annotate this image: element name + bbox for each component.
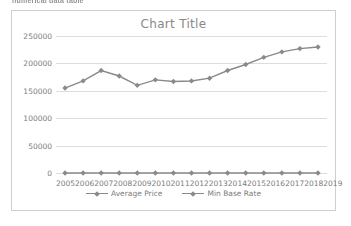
data-point-marker — [315, 170, 320, 175]
data-point-marker — [117, 73, 122, 78]
data-point-marker — [62, 85, 67, 90]
chart-title: Chart Title — [12, 17, 335, 31]
series-lines-group — [56, 36, 327, 173]
data-point-marker — [225, 170, 230, 175]
chart-frame: Chart Title 0500001000001500002000002500… — [11, 10, 336, 211]
data-point-marker — [279, 49, 284, 54]
data-point-marker — [207, 76, 212, 81]
data-point-marker — [297, 46, 302, 51]
data-point-marker — [135, 170, 140, 175]
y-axis-tick-label: 250000 — [23, 32, 52, 41]
data-point-marker — [225, 68, 230, 73]
chart-legend: Average PriceMin Base Rate — [12, 189, 335, 198]
y-axis-tick-label: 50000 — [28, 141, 52, 150]
legend-line-marker-icon — [182, 190, 204, 198]
data-point-marker — [80, 170, 85, 175]
y-axis-tick-label: 0 — [47, 169, 52, 178]
data-point-marker — [189, 170, 194, 175]
data-point-marker — [297, 170, 302, 175]
plot-area: 050000100000150000200000250000 — [56, 36, 327, 173]
data-point-marker — [261, 170, 266, 175]
y-axis-tick-label: 150000 — [23, 86, 52, 95]
data-point-marker — [153, 77, 158, 82]
data-point-marker — [117, 170, 122, 175]
data-point-marker — [261, 55, 266, 60]
data-point-marker — [189, 78, 194, 83]
data-point-marker — [243, 62, 248, 67]
data-point-marker — [279, 170, 284, 175]
data-point-marker — [171, 170, 176, 175]
legend-entry[interactable]: Min Base Rate — [182, 189, 261, 198]
data-point-marker — [135, 83, 140, 88]
legend-label: Min Base Rate — [207, 189, 261, 198]
data-point-marker — [207, 170, 212, 175]
y-axis-tick-label: 100000 — [23, 114, 52, 123]
data-point-marker — [243, 170, 248, 175]
clipped-caption-text: numerical data table — [12, 0, 84, 4]
data-point-marker — [315, 44, 320, 49]
legend-line-marker-icon — [86, 190, 108, 198]
data-point-marker — [98, 170, 103, 175]
legend-entry[interactable]: Average Price — [86, 189, 162, 198]
data-point-marker — [62, 170, 67, 175]
legend-label: Average Price — [111, 189, 162, 198]
data-point-marker — [171, 79, 176, 84]
data-point-marker — [153, 170, 158, 175]
y-axis-tick-label: 200000 — [23, 59, 52, 68]
